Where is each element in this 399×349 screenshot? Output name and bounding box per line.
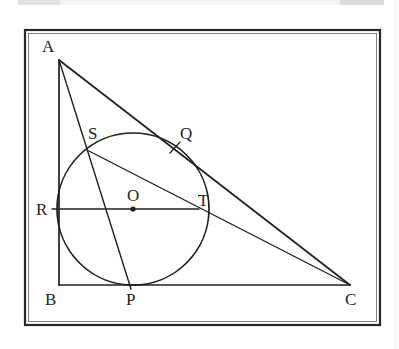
- segment-SC: [87, 150, 350, 285]
- scan-artifact-right: [393, 0, 399, 349]
- scan-artifact-top: [0, 0, 399, 5]
- vertex-label-t: T: [198, 191, 209, 210]
- vertex-label-o: O: [127, 186, 139, 205]
- vertex-label-a: A: [42, 37, 55, 56]
- segment-AC: [59, 60, 350, 285]
- center-point-dot-icon: [130, 206, 135, 211]
- vertex-label-p: P: [126, 290, 135, 309]
- vertex-label-s: S: [88, 124, 97, 143]
- vertex-label-c: C: [345, 290, 356, 309]
- vertex-label-r: R: [36, 200, 48, 219]
- segment-AP: [59, 60, 131, 289]
- vertex-label-q: Q: [180, 124, 192, 143]
- vertex-label-b: B: [45, 290, 56, 309]
- geometry-canvas: A B C O P R T S Q: [0, 0, 399, 349]
- geometry-figure: A B C O P R T S Q: [0, 0, 399, 349]
